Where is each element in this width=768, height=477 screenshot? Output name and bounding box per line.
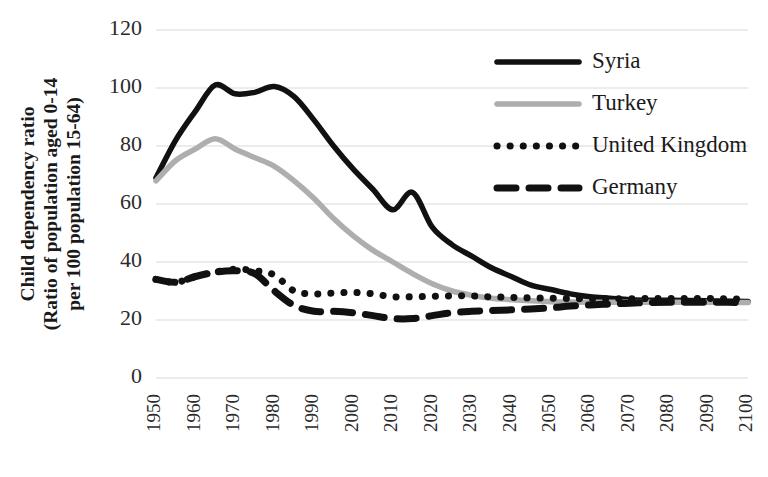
x-tick-label: 1950: [143, 394, 164, 432]
series-line-turkey: [156, 139, 748, 303]
legend-label-turkey[interactable]: Turkey: [592, 90, 658, 115]
y-axis-title-line: per 100 population 15-64): [63, 97, 85, 311]
chart-container: 020406080100120 195019601970198019902000…: [0, 0, 768, 477]
y-tick-label: 40: [120, 247, 142, 272]
x-tick-label: 2060: [577, 394, 598, 432]
x-tick-label: 2050: [538, 394, 559, 432]
x-tick-label: 2000: [341, 394, 362, 432]
x-tick-label: 1990: [301, 394, 322, 432]
series-line-germany: [156, 271, 748, 319]
x-tick-label: 1970: [222, 394, 243, 432]
y-tick-label: 100: [109, 73, 142, 98]
y-tick-label: 60: [120, 189, 142, 214]
y-tick-label: 120: [109, 15, 142, 40]
legend-label-germany[interactable]: Germany: [592, 174, 678, 199]
chart-legend: SyriaTurkeyUnited KingdomGermany: [497, 48, 747, 199]
x-tick-label: 2010: [380, 394, 401, 432]
line-chart: 020406080100120 195019601970198019902000…: [0, 0, 768, 477]
legend-label-united-kingdom[interactable]: United Kingdom: [592, 132, 747, 157]
x-tick-label: 2070: [617, 394, 638, 432]
x-tick-label: 2040: [499, 394, 520, 432]
x-tick-label: 2030: [459, 394, 480, 432]
x-tick-label: 1960: [183, 394, 204, 432]
gridlines: [156, 30, 748, 378]
y-tick-label: 80: [120, 131, 142, 156]
data-series: [156, 85, 748, 319]
legend-label-syria[interactable]: Syria: [592, 48, 641, 73]
x-tick-label: 1980: [262, 394, 283, 432]
y-tick-label: 0: [131, 363, 142, 388]
y-tick-label: 20: [120, 305, 142, 330]
y-axis-title-line: (Ratio of population aged 0-14: [40, 78, 62, 331]
y-axis-tick-labels: 020406080100120: [109, 15, 142, 388]
x-tick-label: 2100: [735, 394, 756, 432]
x-tick-label: 2020: [420, 394, 441, 432]
x-tick-label: 2080: [656, 394, 677, 432]
y-axis-title: Child dependency ratio(Ratio of populati…: [17, 78, 85, 331]
x-axis-tick-labels: 1950196019701980199020002010202020302040…: [143, 394, 756, 432]
x-tick-label: 2090: [696, 394, 717, 432]
y-axis-title-line: Child dependency ratio: [17, 106, 38, 301]
series-line-united-kingdom: [156, 269, 748, 299]
